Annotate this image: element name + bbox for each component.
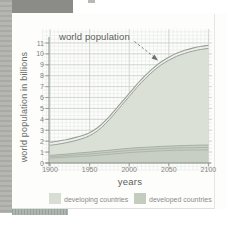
y-tick-label: 3: [31, 127, 44, 134]
x-tick-label: 1900: [39, 166, 61, 174]
y-tick-label: 4: [31, 116, 44, 123]
x-tick-label: 2100: [197, 166, 219, 174]
y-tick-label: 10: [31, 50, 44, 57]
y-tick-label: 2: [31, 138, 44, 145]
x-tick-label: 2000: [118, 166, 140, 174]
y-tick-label: 8: [31, 72, 44, 79]
x-axis-title: years: [90, 176, 170, 187]
x-tick-label: 2050: [158, 166, 180, 174]
legend-swatch-developing: [49, 193, 61, 204]
y-tick-label: 1: [31, 149, 44, 156]
y-axis-title: world population in billions: [19, 47, 29, 167]
annotation-arrow: [135, 42, 159, 61]
annotation-world-population: world population: [59, 31, 130, 42]
y-tick-label: 7: [31, 83, 44, 90]
y-tick-label: 11: [31, 40, 44, 47]
y-tick-label: 6: [31, 94, 44, 101]
y-tick-label: 5: [31, 105, 44, 112]
y-tick-label: 9: [31, 61, 44, 68]
legend-label-developing: developing countries: [64, 196, 128, 203]
legend-swatch-developed: [134, 193, 146, 204]
legend-label-developed: developed countries: [149, 196, 212, 203]
x-tick-label: 1950: [79, 166, 101, 174]
